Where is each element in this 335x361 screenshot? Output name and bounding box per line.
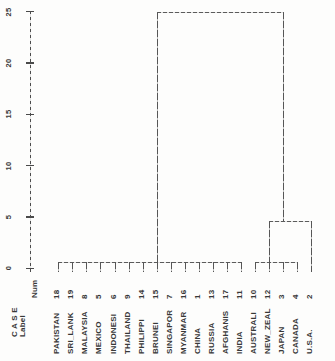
- leaf-num: 12: [264, 284, 272, 299]
- axis-tick-label: 10: [5, 158, 13, 174]
- axis-tick-label: 25: [5, 4, 13, 20]
- leaf-label: MEXICO: [95, 302, 103, 354]
- plot-area: 0510152025PAKISTAN18SRI_LANK19MALAYSIA8M…: [0, 0, 335, 361]
- leaf-label: NEW_ZEAL: [264, 302, 272, 354]
- axis-tick-label: 20: [5, 55, 13, 71]
- leaf-label: SINGAPOR: [166, 302, 174, 354]
- leaf-tick: [185, 262, 186, 272]
- leaf-label: JAPAN: [278, 302, 286, 354]
- leaf-tick: [311, 221, 312, 272]
- cluster-link-root: [157, 12, 285, 13]
- case-axis-header: C A S E Label: [11, 285, 27, 337]
- leaf-label: CANADA: [292, 302, 300, 354]
- leaf-tick: [100, 262, 101, 272]
- leaf-tick: [58, 262, 59, 272]
- leaf-tick: [72, 262, 73, 272]
- leaf-label: SRI_LANK: [67, 302, 75, 354]
- num-header: Num: [31, 280, 39, 298]
- leaf-tick: [241, 262, 242, 272]
- leaf-num: 3: [278, 284, 286, 299]
- y-axis-line: [30, 11, 31, 272]
- dendrogram-chart: 0510152025PAKISTAN18SRI_LANK19MALAYSIA8M…: [0, 0, 335, 361]
- leaf-label: INDIA: [236, 302, 244, 354]
- leaf-label: MALAYSIA: [81, 302, 89, 354]
- leaf-num: 15: [152, 284, 160, 299]
- leaf-label: AUSTRALI: [250, 302, 258, 354]
- leaf-num: 11: [236, 284, 244, 299]
- leaf-label: CHINA: [194, 302, 202, 354]
- leaf-num: 10: [250, 284, 258, 299]
- axis-tick: [26, 165, 34, 167]
- leaf-num: 9: [124, 284, 132, 299]
- leaf-tick: [157, 262, 158, 272]
- axis-tick-label: 0: [5, 260, 13, 276]
- cluster-link-western-cluster: [269, 221, 312, 222]
- leaf-num: 18: [53, 284, 61, 299]
- leaf-label: PAKISTAN: [53, 302, 61, 354]
- leaf-tick: [171, 262, 172, 272]
- cluster-stem-asia-cluster: [157, 12, 158, 262]
- axis-tick: [26, 216, 34, 218]
- axis-tick: [26, 268, 34, 270]
- leaf-num: 4: [292, 284, 300, 299]
- cluster-stem-oceania-cluster: [269, 221, 270, 262]
- leaf-tick: [199, 262, 200, 272]
- cluster-stem-western-cluster: [283, 12, 284, 221]
- leaf-num: 19: [67, 284, 75, 299]
- leaf-tick: [255, 262, 256, 272]
- leaf-num: 1: [194, 284, 202, 299]
- leaf-tick: [129, 262, 130, 272]
- axis-tick: [26, 62, 34, 64]
- label-header-line: Label: [19, 285, 27, 337]
- leaf-num: 16: [180, 284, 188, 299]
- leaf-num: 17: [222, 284, 230, 299]
- leaf-num: 6: [110, 284, 118, 299]
- leaf-num: 7: [166, 284, 174, 299]
- leaf-tick: [283, 262, 284, 272]
- leaf-tick: [269, 262, 270, 272]
- axis-tick-label: 15: [5, 106, 13, 122]
- leaf-num: 14: [138, 284, 146, 299]
- leaf-label: THAILAND: [124, 302, 132, 354]
- cluster-link-oceania-cluster: [255, 262, 298, 263]
- leaf-num: 13: [208, 284, 216, 299]
- leaf-tick: [213, 262, 214, 272]
- leaf-label: AFGHANIS: [222, 302, 230, 354]
- leaf-label: INDONESI: [110, 302, 118, 354]
- leaf-label: PHILIPPI: [138, 302, 146, 354]
- leaf-tick: [143, 262, 144, 272]
- leaf-tick: [227, 262, 228, 272]
- axis-tick: [26, 11, 34, 13]
- leaf-tick: [86, 262, 87, 272]
- leaf-tick: [297, 262, 298, 272]
- leaf-tick: [115, 262, 116, 272]
- leaf-num: 2: [306, 284, 314, 299]
- leaf-label: MYANMAR: [180, 302, 188, 354]
- leaf-num: 8: [81, 284, 89, 299]
- leaf-label: U.S.A.: [306, 302, 314, 354]
- axis-tick-label: 5: [5, 209, 13, 225]
- leaf-label: RUSSIA: [208, 302, 216, 354]
- leaf-num: 5: [95, 284, 103, 299]
- axis-tick: [26, 114, 34, 116]
- leaf-label: BRUNEI: [152, 302, 160, 354]
